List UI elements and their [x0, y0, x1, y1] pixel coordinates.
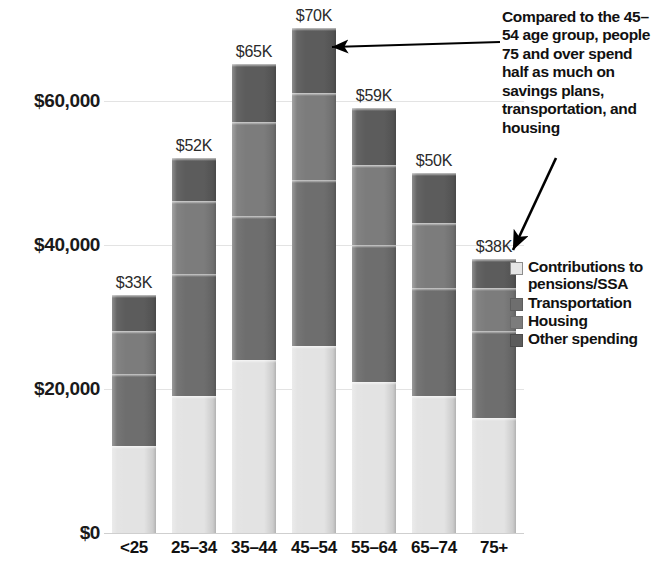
y-axis-tick-label: $20,000 [4, 378, 100, 400]
bar-segment[interactable] [352, 108, 396, 166]
annotation-callout: Compared to the 45–54 age group, people … [502, 8, 658, 137]
gridline [104, 533, 524, 534]
y-axis: $0$20,000$40,000$60,000 [0, 14, 100, 533]
bar-segment[interactable] [412, 173, 456, 223]
bar-group[interactable]: $70K [292, 28, 336, 533]
bar-segment[interactable] [292, 180, 336, 346]
legend-item[interactable]: Contributions to pensions/SSA [510, 258, 660, 293]
bar-group[interactable]: $33K [112, 295, 156, 533]
legend-item[interactable]: Other spending [510, 330, 660, 347]
legend-swatch-other-icon [510, 334, 523, 347]
x-axis-tick-label: <25 [102, 538, 166, 558]
legend-item-label: Transportation [528, 294, 632, 311]
legend-item-label: Other spending [528, 330, 638, 347]
y-axis-tick-label: $0 [4, 522, 100, 544]
bar-group[interactable]: $59K [352, 108, 396, 533]
bar-total-label: $52K [162, 137, 226, 155]
bar-segment[interactable] [112, 446, 156, 533]
x-axis-tick-label: 65–74 [402, 538, 466, 558]
legend-item-label: Housing [528, 312, 588, 329]
bar-segment[interactable] [172, 274, 216, 397]
stacked-bar-chart: $0$20,000$40,000$60,000 $33K$52K$65K$70K… [0, 0, 660, 572]
bar-group[interactable]: $50K [412, 173, 456, 533]
chart-legend: Contributions to pensions/SSATransportat… [510, 258, 660, 349]
bar-segment[interactable] [412, 223, 456, 288]
bar-segment[interactable] [292, 93, 336, 180]
bar-segment[interactable] [292, 346, 336, 533]
bar-segment[interactable] [352, 165, 396, 244]
bar-segment[interactable] [352, 245, 396, 382]
bar-segment[interactable] [112, 295, 156, 331]
bar-total-label: $33K [102, 274, 166, 292]
bar-group[interactable]: $65K [232, 64, 276, 533]
bar-segment[interactable] [232, 216, 276, 360]
x-axis-tick-label: 55–64 [342, 538, 406, 558]
legend-swatch-housing-icon [510, 316, 523, 329]
bar-total-label: $65K [222, 43, 286, 61]
x-axis-tick-label: 75+ [462, 538, 526, 558]
legend-item-label: Contributions to pensions/SSA [528, 258, 643, 293]
bar-segment[interactable] [232, 360, 276, 533]
bar-segment[interactable] [412, 396, 456, 533]
bar-segment[interactable] [232, 122, 276, 216]
bar-segment[interactable] [292, 28, 336, 93]
bar-group[interactable]: $52K [172, 158, 216, 533]
bar-total-label: $59K [342, 87, 406, 105]
x-axis-tick-label: 35–44 [222, 538, 286, 558]
bar-series-container: $33K$52K$65K$70K$59K$50K$38K [104, 14, 524, 533]
bar-total-label: $50K [402, 152, 466, 170]
y-axis-tick-label: $60,000 [4, 90, 100, 112]
bar-segment[interactable] [172, 158, 216, 201]
bar-total-label: $70K [282, 7, 346, 25]
bar-segment[interactable] [472, 418, 516, 533]
bar-total-label: $38K [462, 238, 526, 256]
bar-segment[interactable] [112, 374, 156, 446]
x-axis-tick-label: 25–34 [162, 538, 226, 558]
legend-item[interactable]: Transportation [510, 294, 660, 311]
plot-area: $33K$52K$65K$70K$59K$50K$38K [104, 14, 524, 533]
legend-swatch-contributions-icon [510, 262, 523, 275]
bar-segment[interactable] [172, 201, 216, 273]
x-axis: <2525–3435–4445–5455–6465–7475+ [104, 538, 524, 566]
x-axis-tick-label: 45–54 [282, 538, 346, 558]
legend-item[interactable]: Housing [510, 312, 660, 329]
bar-segment[interactable] [172, 396, 216, 533]
bar-segment[interactable] [232, 64, 276, 122]
bar-segment[interactable] [112, 331, 156, 374]
y-axis-tick-label: $40,000 [4, 234, 100, 256]
legend-swatch-transportation-icon [510, 298, 523, 311]
bar-segment[interactable] [352, 382, 396, 533]
bar-segment[interactable] [412, 288, 456, 396]
